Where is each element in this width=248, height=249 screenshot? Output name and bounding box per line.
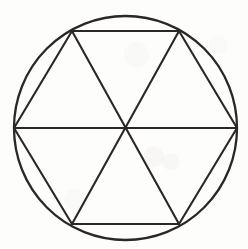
hexagon-in-circle-diagram (0, 0, 248, 249)
figure-canvas: Circle with inscribed regular hexagon di… (0, 0, 248, 249)
